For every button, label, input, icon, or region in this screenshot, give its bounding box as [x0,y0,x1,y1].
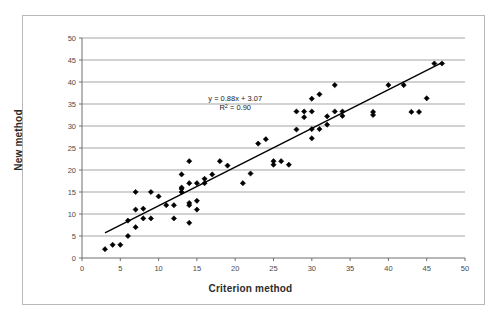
chart-figure: 05101520253035404550 0510152025303540455… [0,0,501,320]
y-tick-label: 40 [68,78,76,87]
y-tick-label: 35 [68,100,76,109]
y-tick-label: 15 [68,188,76,197]
r-squared-label: R2 = 0.90 [219,103,251,112]
y-tick-label: 5 [72,232,76,241]
x-tick-label: 30 [308,264,316,273]
y-tick-label: 45 [68,56,76,65]
x-tick-label: 20 [231,264,239,273]
y-tick-label: 50 [68,34,76,43]
y-tick-label: 10 [68,210,76,219]
x-tick-label: 10 [154,264,162,273]
r-squared-value: = 0.90 [228,103,251,112]
x-tick-label: 5 [118,264,122,273]
x-axis-title: Criterion method [0,283,501,294]
x-tick-label: 25 [269,264,277,273]
x-axis-tick-labels: 05101520253035404550 [80,264,469,273]
x-tick-label: 50 [461,264,469,273]
y-axis-tick-labels: 05101520253035404550 [68,34,76,263]
y-axis-title: New method [13,109,24,170]
scatter-plot: 05101520253035404550 0510152025303540455… [0,0,501,320]
y-tick-label: 0 [72,254,76,263]
x-tick-label: 40 [384,264,392,273]
x-tick-label: 15 [193,264,201,273]
y-tick-label: 20 [68,166,76,175]
y-tick-label: 30 [68,122,76,131]
y-tick-label: 25 [68,144,76,153]
regression-equation-label: y = 0.88x + 3.07 [208,94,262,103]
x-tick-label: 0 [80,264,84,273]
x-tick-label: 45 [423,264,431,273]
x-tick-label: 35 [346,264,354,273]
